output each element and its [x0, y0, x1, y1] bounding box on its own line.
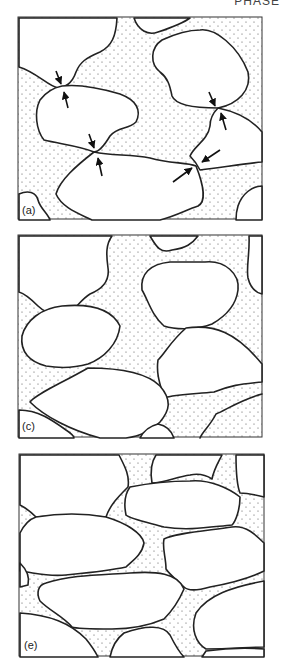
clipped-header-text: PHASE — [234, 0, 280, 8]
panel-a-label: (a) — [22, 204, 35, 216]
panel-c: (c) — [0, 234, 284, 440]
panel-e: (e) — [0, 453, 284, 659]
panel-e-label: (e) — [24, 639, 37, 651]
panel-a: (a) — [0, 16, 284, 222]
panel-c-label: (c) — [22, 420, 35, 432]
